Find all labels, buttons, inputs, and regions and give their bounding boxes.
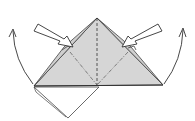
left-curved-arrow xyxy=(9,29,33,84)
folded-triangle xyxy=(34,18,163,86)
right-curved-arrow xyxy=(164,28,186,84)
origami-fold-diagram xyxy=(0,0,195,121)
right-push-arrow xyxy=(122,24,162,47)
bottom-square-flap xyxy=(34,87,99,118)
left-push-arrow xyxy=(34,24,73,47)
